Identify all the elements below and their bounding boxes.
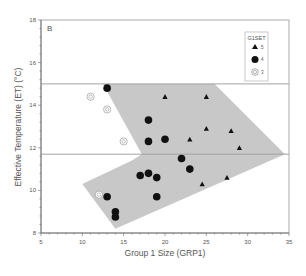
filled-circle-marker	[103, 193, 111, 201]
y-axis-label: Effective Temperature (ET) (°C)	[13, 67, 23, 186]
y-tick-label: 8	[33, 230, 37, 236]
filled-circle-marker	[161, 135, 169, 143]
x-tick-label: 5	[39, 239, 43, 245]
target-marker	[104, 106, 111, 113]
upper-region	[103, 84, 285, 154]
x-axis-label: Group 1 Size (GRP1)	[125, 248, 206, 258]
x-tick-label: 20	[162, 239, 169, 245]
y-tick-label: 10	[29, 187, 36, 193]
filled-circle-marker	[145, 138, 153, 146]
target-circle-icon	[252, 69, 259, 76]
filled-circle-marker	[178, 155, 186, 163]
target-marker	[95, 191, 102, 198]
filled-circle-icon	[252, 56, 259, 63]
filled-circle-marker	[103, 84, 111, 92]
y-tick-label: 18	[29, 17, 36, 23]
x-tick-label: 15	[120, 239, 127, 245]
y-tick-label: 16	[29, 60, 36, 66]
target-marker	[120, 138, 127, 145]
legend: G1SET 5 4 3	[245, 32, 268, 81]
target-marker	[87, 93, 94, 100]
filled-circle-marker	[112, 213, 120, 221]
x-tick-label: 10	[79, 239, 86, 245]
filled-circle-marker	[153, 174, 161, 182]
x-tick-label: 25	[203, 239, 210, 245]
scatter-chart: 510152025303581012141618 B Group 1 Size …	[0, 0, 306, 276]
x-tick-label: 35	[286, 239, 293, 245]
filled-circle-marker	[153, 193, 161, 201]
legend-title: G1SET	[247, 35, 266, 41]
filled-circle-marker	[145, 116, 153, 124]
filled-circle-marker	[145, 170, 153, 178]
x-tick-label: 30	[244, 239, 251, 245]
y-tick-label: 14	[29, 102, 36, 108]
filled-circle-marker	[136, 172, 144, 180]
y-tick-label: 12	[29, 145, 36, 151]
panel-label: B	[47, 24, 52, 33]
filled-circle-marker	[186, 165, 194, 173]
